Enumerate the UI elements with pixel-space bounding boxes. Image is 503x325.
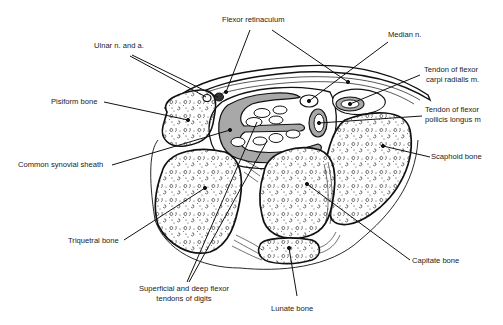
- label-triquetral-bone: Triquetral bone: [68, 236, 119, 246]
- label-scaphoid-bone: Scaphoid bone: [431, 152, 482, 162]
- triquetral-bone-shape: [155, 149, 241, 253]
- label-superficial-deep-flexor-tendons: Superficial and deep flexor tendons of d…: [133, 284, 235, 303]
- label-line-1: Tendon of flexor: [424, 65, 479, 75]
- ulnar-artery-shape: [215, 93, 224, 101]
- label-ulnar-n-and-a: Ulnar n. and a.: [94, 41, 144, 51]
- label-lunate-bone: Lunate bone: [271, 304, 313, 314]
- label-line-1: Tendon of flexor: [425, 105, 481, 115]
- label-common-synovial-sheath: Common synovial sheath: [18, 160, 103, 170]
- label-pisiform-bone: Pisiform bone: [51, 97, 97, 107]
- label-line-1: Superficial and deep flexor: [133, 284, 235, 294]
- label-line-2: carpi radialis m.: [424, 75, 479, 85]
- label-line-2: tendons of digits: [133, 294, 235, 304]
- label-capitate-bone: Capitate bone: [412, 256, 459, 266]
- label-line-2: pollicis longus m: [425, 115, 481, 125]
- scaphoid-bone-shape: [324, 113, 411, 225]
- label-tendon-flexor-pollicis-longus: Tendon of flexor pollicis longus m: [425, 105, 481, 124]
- label-median-n: Median n.: [388, 30, 421, 40]
- label-flexor-retinaculum: Flexor retinaculum: [222, 15, 284, 25]
- label-tendon-flexor-carpi-radialis: Tendon of flexor carpi radialis m.: [424, 65, 479, 84]
- capitate-bone-shape: [260, 148, 335, 239]
